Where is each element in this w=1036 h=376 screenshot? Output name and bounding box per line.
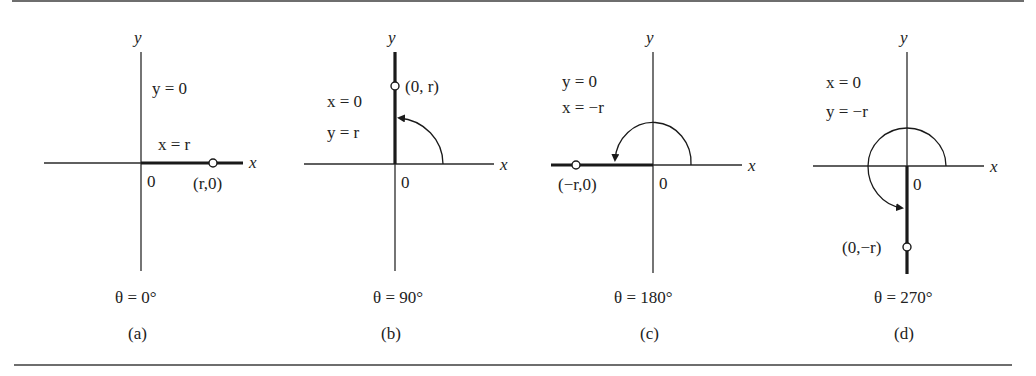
panel-b: y x 0 x = 0 y = r (0, r) θ = 90° (b) bbox=[304, 28, 508, 343]
origin-label: 0 bbox=[659, 174, 668, 193]
x-axis-label: x bbox=[989, 157, 998, 176]
angle-positions-figure: y x 0 y = 0 x = r (r,0) θ = 0° (a) y x 0… bbox=[0, 0, 1036, 376]
y-axis-label: y bbox=[644, 28, 654, 47]
point-label: (−r,0) bbox=[558, 175, 597, 194]
x-axis-label: x bbox=[499, 155, 508, 174]
y-axis-label: y bbox=[898, 28, 908, 47]
panel-caption: (b) bbox=[381, 324, 401, 343]
equation-2: x = −r bbox=[562, 98, 604, 117]
rotation-arc bbox=[399, 118, 443, 164]
panel-caption: (c) bbox=[640, 324, 659, 343]
x-axis-label: x bbox=[747, 156, 756, 175]
equation-2: x = r bbox=[158, 135, 191, 154]
equation-2: y = −r bbox=[826, 102, 868, 121]
point-label: (0, r) bbox=[405, 77, 439, 96]
point-marker bbox=[903, 243, 911, 251]
panel-c: y x 0 y = 0 x = −r (−r,0) θ = 180° (c) bbox=[551, 28, 756, 343]
panel-caption: (d) bbox=[894, 324, 914, 343]
point-marker bbox=[209, 159, 217, 167]
origin-label: 0 bbox=[401, 173, 410, 192]
equation-1: y = 0 bbox=[562, 72, 597, 91]
equation-2: y = r bbox=[327, 123, 360, 142]
point-label: (0,−r) bbox=[842, 238, 881, 257]
y-axis-label: y bbox=[386, 28, 396, 47]
y-axis-label: y bbox=[132, 28, 142, 47]
x-axis-label: x bbox=[248, 153, 257, 172]
panel-d: y x 0 x = 0 y = −r (0,−r) θ = 270° (d) bbox=[813, 28, 998, 343]
origin-label: 0 bbox=[147, 172, 156, 191]
angle-label: θ = 180° bbox=[614, 288, 673, 307]
point-label: (r,0) bbox=[193, 174, 222, 193]
point-marker bbox=[572, 161, 580, 169]
equation-1: y = 0 bbox=[152, 79, 187, 98]
angle-label: θ = 270° bbox=[874, 288, 933, 307]
point-marker bbox=[391, 82, 399, 90]
panel-caption: (a) bbox=[128, 324, 147, 343]
angle-label: θ = 90° bbox=[373, 288, 423, 307]
angle-label: θ = 0° bbox=[115, 288, 157, 307]
equation-1: x = 0 bbox=[327, 92, 362, 111]
panel-a: y x 0 y = 0 x = r (r,0) θ = 0° (a) bbox=[44, 28, 257, 343]
origin-label: 0 bbox=[913, 175, 922, 194]
equation-1: x = 0 bbox=[826, 73, 861, 92]
